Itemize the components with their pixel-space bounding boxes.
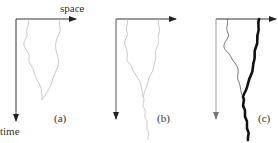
merged-walk-path [143,97,149,140]
panel-label-a: (a) [54,113,66,124]
space-axis-label: space [60,3,84,14]
thick-walk-path [243,19,259,140]
time-axis-label: time [0,126,20,137]
left-walk-path [24,19,42,100]
thin-walk-path [224,19,243,97]
panel-a [16,19,76,121]
right-walk-path [143,19,160,97]
left-walk-path [125,19,143,97]
panel-label-c: (c) [258,113,270,124]
panel-label-b: (b) [157,113,170,124]
diagram-canvas [0,0,278,143]
right-walk-path [42,19,60,100]
